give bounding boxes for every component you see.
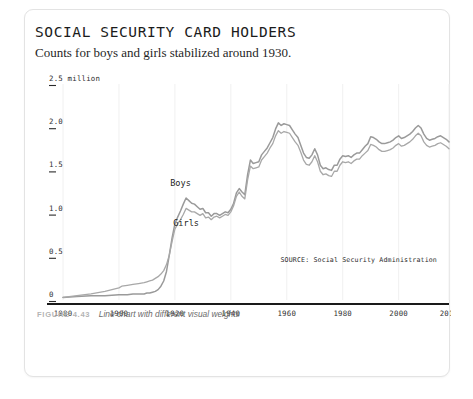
figure-caption-label: FIGURE 4.43: [37, 310, 90, 319]
figure-caption-text: Line chart with different visual weights: [99, 309, 240, 319]
x-axis-tick-label: 1960: [277, 309, 296, 318]
page-root: SOCIAL SECURITY CARD HOLDERS Counts for …: [0, 0, 473, 399]
chart-title: SOCIAL SECURITY CARD HOLDERS: [35, 24, 296, 40]
figure-caption: FIGURE 4.43 Line chart with different vi…: [37, 303, 240, 321]
source-note: SOURCE: Social Security Administration: [280, 256, 437, 264]
x-axis-tick-label: 1980: [333, 309, 352, 318]
gridlines: [63, 84, 449, 300]
y-axis-tick-label: 0.5: [49, 247, 63, 256]
series-line-girls: [63, 131, 449, 298]
y-axis-tick-label: 2.0: [49, 117, 63, 126]
chart-plot-area: 00.51.01.52.02.5 million 188019001920194…: [25, 72, 451, 322]
y-axis-tick-label: 0: [49, 290, 54, 299]
series-label-boys: Boys: [170, 178, 191, 188]
chart-subtitle: Counts for boys and girls stabilized aro…: [35, 45, 291, 61]
line-chart-svg: 00.51.01.52.02.5 million 188019001920194…: [25, 72, 451, 322]
y-axis-tick-label: 2.5 million: [49, 74, 100, 83]
y-axis-ticks: 00.51.01.52.02.5 million: [49, 74, 100, 302]
figure-card: SOCIAL SECURITY CARD HOLDERS Counts for …: [24, 9, 450, 377]
x-axis-tick-label: 2000: [389, 309, 408, 318]
y-axis-tick-label: 1.5: [49, 160, 63, 169]
series-label-girls: Girls: [173, 218, 199, 228]
x-axis-tick-label: 2018: [440, 309, 451, 318]
y-axis-tick-label: 1.0: [49, 204, 63, 213]
data-series: [63, 123, 449, 298]
